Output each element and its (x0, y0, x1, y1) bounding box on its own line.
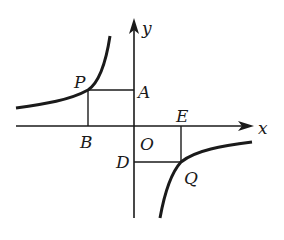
x-axis (16, 121, 254, 131)
label-D: D (115, 152, 130, 172)
hyperbola-diagram: y x O P A B E D Q (0, 0, 284, 240)
label-A: A (136, 82, 150, 102)
label-Q: Q (184, 168, 198, 188)
y-axis (129, 18, 139, 218)
hyperbola-branch-upper-left (16, 36, 110, 108)
label-B: B (79, 132, 93, 152)
rectangle-PAOB (88, 90, 134, 126)
label-E: E (175, 106, 189, 126)
label-x: x (258, 118, 268, 138)
hyperbola-branch-lower-right (160, 142, 252, 218)
label-y: y (141, 18, 152, 38)
label-P: P (73, 72, 86, 92)
label-O: O (140, 134, 154, 154)
